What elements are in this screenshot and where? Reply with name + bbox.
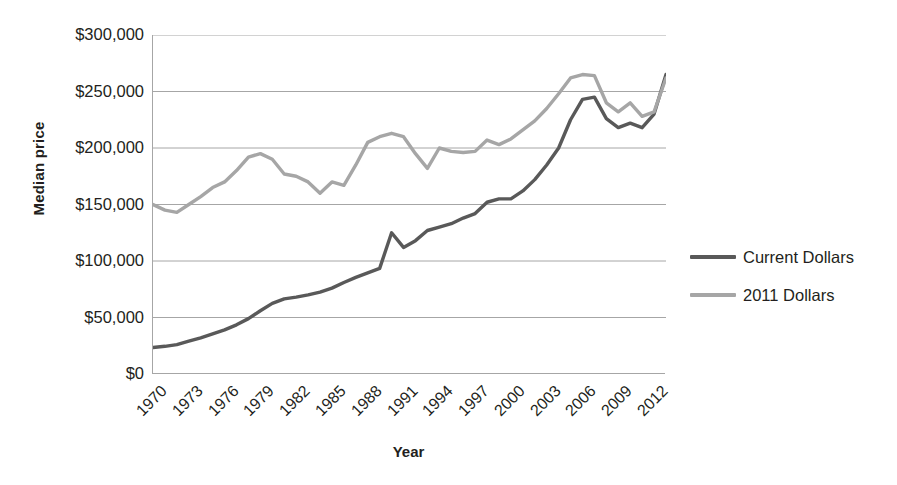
- x-axis-tick-label: 2006: [555, 382, 600, 427]
- y-axis-tick-label: $200,000: [34, 139, 144, 156]
- x-axis-tick-label: 1994: [412, 382, 457, 427]
- x-axis-title: Year: [152, 443, 665, 460]
- chart-container: Median price $300,000$250,000$200,000$15…: [0, 0, 897, 485]
- chart-legend: Current Dollars2011 Dollars: [690, 238, 890, 314]
- plot-svg: [153, 35, 666, 374]
- x-axis-tick-label: 1997: [448, 382, 493, 427]
- x-axis-tick-label: 1985: [304, 382, 349, 427]
- y-axis-tick-label: $150,000: [34, 196, 144, 213]
- y-axis-tick-label: $50,000: [34, 309, 144, 326]
- x-axis-tick-label: 1988: [340, 382, 385, 427]
- x-axis-tick-label: 2000: [483, 382, 528, 427]
- plot-area: [152, 35, 665, 374]
- y-axis-tick-label: $300,000: [34, 26, 144, 43]
- x-axis-tick-labels: 1970197319761979198219851988199119941997…: [152, 374, 665, 444]
- x-axis-tick-label: 1982: [269, 382, 314, 427]
- x-axis-tick-label: 1979: [233, 382, 278, 427]
- x-axis-tick-label: 1991: [376, 382, 421, 427]
- series-line: [153, 75, 666, 348]
- y-axis-tick-label: $0: [34, 365, 144, 382]
- x-axis-tick-label: 1976: [197, 382, 242, 427]
- legend-color-swatch: [690, 255, 736, 259]
- x-axis-tick-label: 1973: [161, 382, 206, 427]
- x-axis-tick-label: 2003: [519, 382, 564, 427]
- x-axis-tick-label: 2009: [591, 382, 636, 427]
- y-axis-tick-label: $100,000: [34, 252, 144, 269]
- legend-item-label: Current Dollars: [743, 248, 854, 267]
- series-line: [153, 75, 666, 213]
- y-axis-tick-label: $250,000: [34, 83, 144, 100]
- legend-item[interactable]: 2011 Dollars: [690, 276, 890, 314]
- legend-item[interactable]: Current Dollars: [690, 238, 890, 276]
- legend-color-swatch: [690, 293, 736, 297]
- legend-item-label: 2011 Dollars: [743, 286, 834, 305]
- x-axis-tick-label: 2012: [627, 382, 672, 427]
